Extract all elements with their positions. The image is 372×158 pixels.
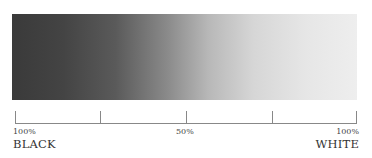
left-percent-label: 100% [13, 127, 36, 136]
scale-ruler [15, 111, 357, 124]
black-to-white-gradient-bar [12, 14, 357, 100]
tick-100 [356, 111, 357, 123]
tick-50 [186, 111, 187, 123]
white-label: WHITE [316, 137, 359, 151]
tick-0 [15, 111, 16, 123]
tick-75 [272, 111, 273, 123]
tick-25 [100, 111, 101, 123]
right-percent-label: 100% [336, 127, 359, 136]
black-label: BLACK [13, 137, 56, 151]
middle-percent-label: 50% [176, 127, 194, 136]
